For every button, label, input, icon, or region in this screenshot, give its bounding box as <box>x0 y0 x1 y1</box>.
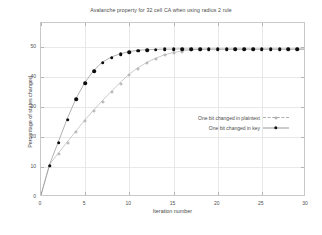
data-point-plaintext <box>110 91 113 94</box>
data-point-key <box>295 48 299 52</box>
data-point-key <box>278 48 282 52</box>
data-point-key <box>287 48 291 52</box>
data-point-key <box>189 48 193 52</box>
legend-item-key: One bit changed in key <box>198 123 289 133</box>
x-tick-label: 10 <box>126 200 132 206</box>
data-point-plaintext <box>75 131 78 134</box>
data-point-key <box>234 48 238 52</box>
data-point-key <box>242 48 246 52</box>
data-point-key <box>136 49 140 53</box>
data-point-key <box>75 97 79 101</box>
legend-label-key: One bit changed in key <box>209 125 260 131</box>
data-point-key <box>163 48 167 52</box>
data-point-key <box>154 48 158 52</box>
legend-item-plaintext: One bit changed in plaintext <box>198 113 289 123</box>
data-point-key <box>172 48 176 52</box>
data-point-key <box>48 164 52 168</box>
data-point-plaintext <box>57 153 60 156</box>
x-axis-label: Iteration number <box>40 208 305 214</box>
y-tick-label: 20 <box>24 133 36 139</box>
data-point-plaintext <box>66 142 69 145</box>
data-point-key <box>225 48 229 52</box>
chart-title: Avalanche property for 32 cell CA when u… <box>0 7 322 13</box>
y-tick-label: 40 <box>24 73 36 79</box>
data-point-plaintext <box>154 58 157 61</box>
data-point-plaintext <box>137 67 140 70</box>
x-tick-label: 30 <box>302 200 308 206</box>
legend-sample-key <box>263 124 289 132</box>
data-point-plaintext <box>101 100 104 103</box>
data-point-plaintext <box>163 54 166 57</box>
plot-area <box>41 23 304 195</box>
y-tick-label: 30 <box>24 103 36 109</box>
plot-frame <box>40 22 305 196</box>
data-point-key <box>269 48 273 52</box>
data-point-plaintext <box>146 62 149 65</box>
data-point-key <box>110 56 114 60</box>
x-tick-label: 20 <box>214 200 220 206</box>
x-tick-label: 0 <box>39 200 42 206</box>
data-point-key <box>216 48 220 52</box>
y-tick-label: 10 <box>24 163 36 169</box>
data-point-plaintext <box>84 120 87 123</box>
y-tick-label: 0 <box>24 193 36 199</box>
x-tick-label: 25 <box>258 200 264 206</box>
data-point-key <box>207 48 211 52</box>
y-tick-label: 50 <box>24 43 36 49</box>
legend-label-plaintext: One bit changed in plaintext <box>198 115 260 121</box>
data-point-key <box>128 50 132 54</box>
data-point-key <box>57 141 61 145</box>
data-point-key <box>101 61 105 65</box>
data-point-plaintext <box>119 82 122 85</box>
data-point-key <box>181 47 185 51</box>
data-point-key <box>66 118 70 122</box>
data-point-key <box>198 48 202 52</box>
data-point-key <box>119 52 123 56</box>
chart-legend: One bit changed in plaintext One bit cha… <box>198 113 289 133</box>
open-circle-icon <box>275 117 278 120</box>
data-point-key <box>92 69 96 73</box>
chart-figure: Avalanche property for 32 cell CA when u… <box>0 0 322 235</box>
data-point-plaintext <box>128 74 131 77</box>
data-point-key <box>260 48 264 52</box>
data-point-key <box>145 48 149 52</box>
x-tick-label: 15 <box>170 200 176 206</box>
legend-sample-plaintext <box>263 114 289 122</box>
filled-circle-icon <box>274 126 277 129</box>
data-point-key <box>83 82 87 86</box>
data-point-key <box>251 48 255 52</box>
data-point-plaintext <box>172 52 175 55</box>
data-point-plaintext <box>93 110 96 113</box>
x-tick-label: 5 <box>83 200 86 206</box>
